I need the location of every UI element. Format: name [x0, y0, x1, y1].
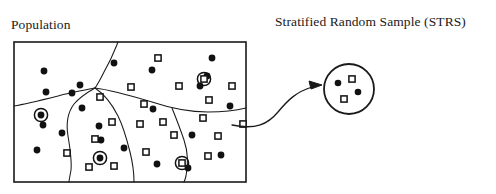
- sample-circle-outline: [324, 64, 374, 114]
- population-label: Population: [11, 17, 71, 33]
- population-dot: [43, 89, 50, 96]
- population-dot: [69, 90, 76, 97]
- sample-square: [341, 96, 347, 102]
- population-square: [160, 119, 166, 125]
- population-dot: [227, 103, 234, 110]
- population-square: [176, 83, 182, 89]
- population-dot: [59, 130, 66, 137]
- population-square: [64, 150, 70, 156]
- stratified-random-sample-label: Stratified Random Sample (STRS): [275, 14, 466, 30]
- population-dot: [77, 82, 84, 89]
- population-square: [205, 153, 211, 159]
- population-dot: [34, 147, 41, 154]
- sample-square: [349, 76, 355, 82]
- population-dot: [111, 60, 118, 67]
- sample-dot: [355, 89, 362, 96]
- population-dot: [79, 105, 86, 112]
- population-square: [92, 136, 98, 142]
- population-square: [109, 119, 115, 125]
- population-square: [141, 101, 147, 107]
- selected-square: [201, 76, 207, 82]
- population-dot: [218, 152, 225, 159]
- sample-dot: [335, 80, 342, 87]
- population-dot: [150, 106, 157, 113]
- population-dot: [121, 145, 128, 152]
- population-square: [97, 94, 103, 100]
- population-square: [128, 84, 134, 90]
- sample-circle-group: [324, 64, 374, 114]
- population-dot: [154, 161, 161, 168]
- population-square: [86, 164, 92, 170]
- selected-dot: [97, 155, 104, 162]
- population-dot: [189, 132, 196, 139]
- population-square: [171, 132, 177, 138]
- population-square: [111, 163, 117, 169]
- population-dot: [209, 55, 216, 62]
- population-square: [215, 133, 221, 139]
- population-square: [155, 55, 161, 61]
- population-square: [137, 121, 143, 127]
- population-square: [200, 115, 206, 121]
- arrow-head-icon: [309, 81, 322, 89]
- population-square: [206, 97, 212, 103]
- population-square: [229, 83, 235, 89]
- population-dot: [40, 122, 47, 129]
- selected-square: [179, 160, 185, 166]
- population-dot: [149, 67, 156, 74]
- population-square: [143, 149, 149, 155]
- population-dot: [41, 68, 48, 75]
- stratified-sampling-figure: Population Stratified Random Sample (STR…: [0, 0, 496, 194]
- population-dot: [96, 123, 103, 130]
- selected-dot: [38, 112, 45, 119]
